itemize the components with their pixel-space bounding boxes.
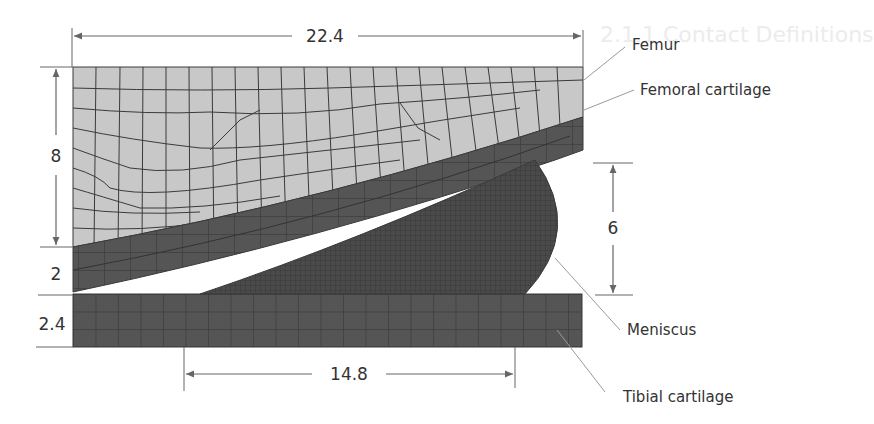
svg-text:Tibial cartilage: Tibial cartilage bbox=[622, 388, 733, 406]
dimension-femur-width: 22.4 bbox=[72, 26, 583, 67]
dimension-meniscus-height: 6 bbox=[593, 163, 633, 295]
callout-femur: Femur bbox=[584, 36, 680, 80]
svg-text:2.4: 2.4 bbox=[38, 314, 65, 334]
svg-text:8: 8 bbox=[51, 146, 62, 166]
svg-text:14.8: 14.8 bbox=[330, 364, 368, 384]
dimension-femoral-cartilage: 2 bbox=[38, 264, 73, 295]
tibial-cartilage-region bbox=[73, 294, 582, 347]
dimension-femur-height: 8 bbox=[40, 67, 73, 247]
svg-text:6: 6 bbox=[608, 218, 619, 238]
dimension-meniscus-width: 14.8 bbox=[184, 347, 515, 391]
svg-text:22.4: 22.4 bbox=[306, 26, 344, 46]
dimension-tibial-cartilage: 2.4 bbox=[36, 314, 73, 347]
callout-femoral-cartilage: Femoral cartilage bbox=[584, 81, 771, 110]
svg-text:Meniscus: Meniscus bbox=[627, 321, 696, 339]
svg-text:2: 2 bbox=[51, 264, 62, 284]
callout-tibial-cartilage: Tibial cartilage bbox=[557, 330, 733, 406]
svg-text:Femur: Femur bbox=[632, 36, 680, 54]
svg-text:Femoral cartilage: Femoral cartilage bbox=[640, 81, 771, 99]
